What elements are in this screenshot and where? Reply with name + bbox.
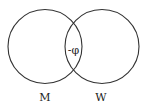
set-m-label: M: [39, 91, 50, 104]
intersection-label: -φ: [68, 44, 80, 57]
venn-diagram: -φ M W: [0, 0, 148, 106]
set-w-label: W: [95, 91, 107, 104]
